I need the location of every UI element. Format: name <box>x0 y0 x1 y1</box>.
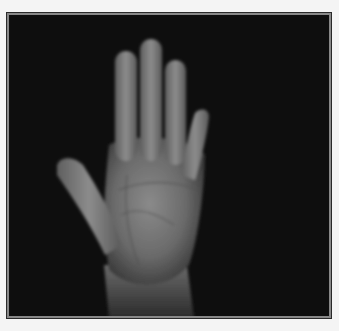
photo-area <box>9 15 329 316</box>
hand-shape <box>57 39 209 316</box>
hand-photo <box>9 15 329 316</box>
photo-frame <box>6 12 332 319</box>
